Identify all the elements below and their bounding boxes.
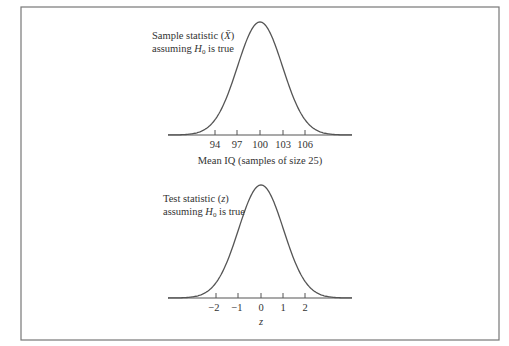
annotation-text: ) bbox=[231, 30, 235, 41]
annotation-text: Test statistic ( bbox=[163, 193, 221, 204]
figure-frame bbox=[21, 7, 499, 340]
annotation-text: Sample statistic ( bbox=[152, 30, 224, 41]
bottom-tick-label: 2 bbox=[302, 302, 307, 313]
bottom-tick-label: 0 bbox=[258, 302, 263, 313]
top-tick-label: 97 bbox=[232, 139, 243, 150]
figure-canvas bbox=[0, 0, 509, 346]
top-annotation: Sample statistic (X̄) assuming H0 is tru… bbox=[152, 29, 234, 59]
bottom-tick-label: −2 bbox=[208, 302, 219, 313]
bottom-tick-marks bbox=[216, 293, 305, 298]
bottom-annotation: Test statistic (z) assuming H0 is true bbox=[163, 192, 245, 222]
annotation-text: is true bbox=[216, 206, 245, 217]
bottom-axis-label: z bbox=[259, 316, 263, 327]
bottom-tick-label: −1 bbox=[231, 302, 242, 313]
bottom-tick-label: 1 bbox=[280, 302, 285, 313]
h-symbol: H bbox=[205, 206, 213, 217]
h-symbol: H bbox=[194, 43, 202, 54]
top-tick-label: 103 bbox=[275, 139, 291, 150]
top-axis-label: Mean IQ (samples of size 25) bbox=[198, 155, 323, 166]
annotation-text: assuming bbox=[163, 206, 205, 217]
annotation-text: assuming bbox=[152, 43, 194, 54]
top-tick-label: 94 bbox=[210, 139, 221, 150]
annotation-text: ) bbox=[225, 193, 229, 204]
top-tick-label: 100 bbox=[252, 139, 268, 150]
top-tick-marks bbox=[215, 130, 305, 135]
top-tick-label: 106 bbox=[297, 139, 313, 150]
annotation-text: is true bbox=[205, 43, 234, 54]
